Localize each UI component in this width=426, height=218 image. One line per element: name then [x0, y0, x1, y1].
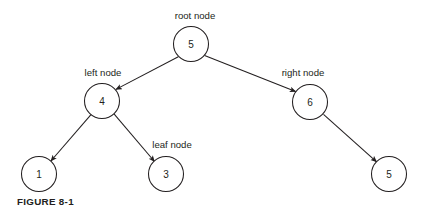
node-left[interactable]: 4: [85, 84, 120, 119]
edge-left-to-left-right: [114, 114, 155, 162]
label-root-node: root node: [175, 10, 216, 21]
node-left-right[interactable]: 3: [149, 157, 184, 192]
node-right[interactable]: 6: [293, 85, 328, 120]
annotation-group: root node left node right node leaf node: [85, 10, 325, 150]
node-root[interactable]: 5: [174, 27, 209, 62]
node-left-value: 4: [99, 96, 105, 107]
node-left-left-value: 1: [36, 169, 42, 180]
node-right-right-value: 5: [386, 169, 392, 180]
label-left-node: left node: [85, 67, 122, 78]
node-right-right[interactable]: 5: [372, 157, 407, 192]
label-leaf-node: leaf node: [152, 139, 191, 150]
node-right-value: 6: [307, 97, 313, 108]
label-right-node: right node: [282, 67, 325, 78]
edge-left-to-left-left: [51, 115, 91, 161]
binary-tree-diagram: 5 4 6 1 3 5 root node left node right no…: [0, 0, 426, 218]
edge-right-to-right-right: [324, 114, 377, 162]
node-left-left[interactable]: 1: [22, 157, 57, 192]
node-left-right-value: 3: [163, 169, 169, 180]
edge-root-to-left: [116, 57, 178, 90]
figure-container: 5 4 6 1 3 5 root node left node right no…: [0, 0, 426, 218]
figure-caption: FIGURE 8-1: [17, 196, 74, 207]
node-root-value: 5: [188, 39, 194, 50]
